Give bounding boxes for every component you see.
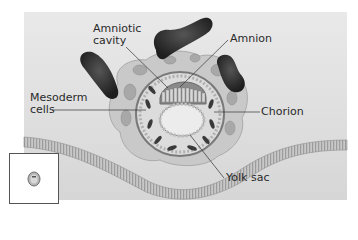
label-line: cavity <box>93 35 141 47</box>
label-amniotic-cavity: Amniotic cavity <box>93 23 141 47</box>
label-yolk-sac: Yolk sac <box>226 172 269 184</box>
embryo-thumbnail-icon <box>10 154 58 203</box>
label-line: cells <box>30 104 88 116</box>
orientation-inset <box>9 153 59 204</box>
label-amnion: Amnion <box>230 33 272 45</box>
label-chorion: Chorion <box>261 106 304 118</box>
label-mesoderm-cells: Mesoderm cells <box>30 92 88 116</box>
